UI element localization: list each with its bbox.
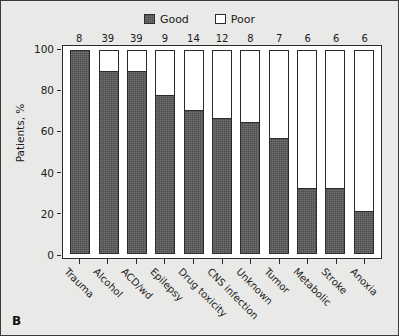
bar-segment-good[interactable] xyxy=(326,188,344,253)
stacked-bar[interactable] xyxy=(212,50,232,254)
y-tick-mark-icon xyxy=(57,255,61,256)
x-axis-label-cell: ACD/wd xyxy=(122,264,151,324)
stacked-bar[interactable] xyxy=(325,50,345,254)
legend-label-good: Good xyxy=(160,14,189,25)
bar-column[interactable] xyxy=(321,50,349,254)
bar-count-label: 12 xyxy=(208,32,237,45)
x-axis-label-cell: Drug toxicity xyxy=(179,264,208,324)
bar-segment-good[interactable] xyxy=(128,71,146,253)
y-tick-mark-icon xyxy=(57,213,61,214)
bar-column[interactable] xyxy=(66,50,94,254)
y-axis-tick-label: 60 xyxy=(41,126,61,137)
bar-segment-good[interactable] xyxy=(213,118,231,253)
bar-count-label: 39 xyxy=(94,32,123,45)
bar-segment-poor[interactable] xyxy=(326,51,344,188)
bar-count-label: 8 xyxy=(65,32,94,45)
bars-container xyxy=(63,46,381,258)
bar-segment-good[interactable] xyxy=(185,110,203,253)
bar-column[interactable] xyxy=(293,50,321,254)
x-axis-label-cell: CNS infection xyxy=(208,264,237,324)
x-axis-label-cell: Metabolic xyxy=(293,264,322,324)
bar-count-label: 14 xyxy=(179,32,208,45)
y-tick-value: 0 xyxy=(47,249,54,261)
bar-count-label: 9 xyxy=(151,32,180,45)
bar-segment-good[interactable] xyxy=(355,211,373,253)
bar-segment-poor[interactable] xyxy=(128,51,146,71)
y-tick-mark-icon xyxy=(57,172,61,173)
bar-count-labels: 839399141287666 xyxy=(62,32,382,45)
stacked-bar[interactable] xyxy=(99,50,119,254)
bar-segment-poor[interactable] xyxy=(213,51,231,118)
legend-label-poor: Poor xyxy=(231,14,255,25)
y-axis-tick-label: 20 xyxy=(41,208,61,219)
bar-segment-good[interactable] xyxy=(270,138,288,253)
x-axis-label-cell: Unknown xyxy=(236,264,265,324)
stacked-bar[interactable] xyxy=(155,50,175,254)
bar-segment-poor[interactable] xyxy=(298,51,316,188)
x-axis-label-cell: Trauma xyxy=(65,264,94,324)
bar-segment-poor[interactable] xyxy=(100,51,118,71)
bar-count-label: 39 xyxy=(122,32,151,45)
stacked-bar[interactable] xyxy=(127,50,147,254)
bar-segment-poor[interactable] xyxy=(270,51,288,138)
stacked-bar[interactable] xyxy=(240,50,260,254)
legend-swatch-poor-icon xyxy=(215,14,226,24)
stacked-bar[interactable] xyxy=(354,50,374,254)
legend-swatch-good-icon xyxy=(144,14,155,24)
y-axis-tick-label: 100 xyxy=(34,44,61,55)
stacked-bar[interactable] xyxy=(184,50,204,254)
bar-segment-poor[interactable] xyxy=(185,51,203,110)
x-axis-label[interactable]: Tumor xyxy=(262,266,292,296)
x-axis-label[interactable]: Trauma xyxy=(62,266,96,300)
stacked-bar[interactable] xyxy=(269,50,289,254)
stacked-bar[interactable] xyxy=(297,50,317,254)
bar-segment-poor[interactable] xyxy=(241,51,259,122)
stacked-bar[interactable] xyxy=(70,50,90,254)
bar-column[interactable] xyxy=(179,50,207,254)
y-axis-title: Patients, % xyxy=(14,88,26,178)
bar-column[interactable] xyxy=(236,50,264,254)
legend-item-good[interactable]: Good xyxy=(144,14,189,25)
y-axis-tick-label: 80 xyxy=(41,85,61,96)
bar-count-label: 7 xyxy=(265,32,294,45)
bar-segment-good[interactable] xyxy=(156,95,174,253)
bar-segment-poor[interactable] xyxy=(156,51,174,95)
chart-legend: Good Poor xyxy=(1,12,398,26)
bar-count-label: 6 xyxy=(350,32,379,45)
bar-count-label: 6 xyxy=(293,32,322,45)
x-axis-labels: TraumaAlcoholACD/wdEpilepsyDrug toxicity… xyxy=(62,264,382,324)
plot-area xyxy=(62,45,382,259)
bar-segment-good[interactable] xyxy=(241,122,259,253)
x-axis-label[interactable]: Alcohol xyxy=(91,266,125,300)
bar-column[interactable] xyxy=(208,50,236,254)
x-axis-label[interactable]: Anoxia xyxy=(348,266,380,298)
y-tick-mark-icon xyxy=(57,90,61,91)
y-tick-value: 60 xyxy=(41,125,54,137)
x-axis-label-cell: Alcohol xyxy=(94,264,123,324)
y-tick-value: 40 xyxy=(41,167,54,179)
bar-segment-good[interactable] xyxy=(298,188,316,253)
x-axis-label-cell: Stroke xyxy=(322,264,351,324)
y-tick-value: 100 xyxy=(34,43,54,55)
bar-segment-good[interactable] xyxy=(71,51,89,253)
x-axis-label-cell: Epilepsy xyxy=(151,264,180,324)
bar-column[interactable] xyxy=(265,50,293,254)
x-axis-label[interactable]: Stroke xyxy=(319,266,349,296)
y-tick-value: 80 xyxy=(41,84,54,96)
bar-segment-poor[interactable] xyxy=(355,51,373,211)
y-tick-mark-icon xyxy=(57,49,61,50)
legend-item-poor[interactable]: Poor xyxy=(215,14,255,25)
x-axis-label-cell: Anoxia xyxy=(350,264,379,324)
y-axis-tick-label: 40 xyxy=(41,167,61,178)
bar-column[interactable] xyxy=(123,50,151,254)
bar-column[interactable] xyxy=(94,50,122,254)
y-axis-tick-label: 0 xyxy=(47,250,61,261)
bar-segment-good[interactable] xyxy=(100,71,118,253)
figure-panel: Good Poor Patients, % 020406080100 83939… xyxy=(0,0,399,336)
bar-column[interactable] xyxy=(151,50,179,254)
x-axis-label-cell: Tumor xyxy=(265,264,294,324)
bar-count-label: 8 xyxy=(236,32,265,45)
y-tick-mark-icon xyxy=(57,131,61,132)
bar-column[interactable] xyxy=(350,50,378,254)
bar-count-label: 6 xyxy=(322,32,351,45)
